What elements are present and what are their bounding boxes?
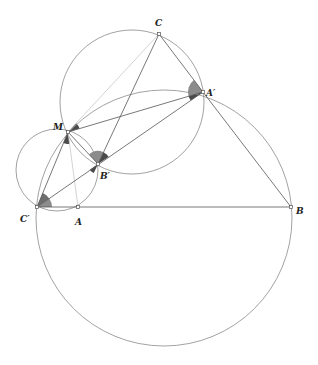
point-a — [77, 206, 80, 209]
small-circle — [16, 129, 98, 211]
label-a-prime: A′ — [205, 88, 216, 98]
label-c: C — [155, 18, 163, 28]
label-b-prime: B′ — [99, 171, 111, 181]
point-c — [158, 33, 161, 36]
segment-m-b-prime — [68, 132, 98, 164]
label-a: A — [74, 217, 82, 227]
point-m — [67, 131, 70, 134]
point-b-prime — [97, 163, 100, 166]
segment-m-c — [68, 34, 159, 132]
label-b: B — [295, 206, 304, 216]
segment-c-prime-m — [37, 132, 68, 207]
geometry-diagram: C A′ M B′ C′ A B — [0, 0, 318, 365]
segment-c-prime-a-prime — [37, 92, 203, 207]
segment-m-a-prime — [68, 92, 203, 132]
point-a-prime — [202, 91, 205, 94]
segment-c-a-prime — [159, 34, 203, 92]
segment-a-prime-b — [203, 92, 291, 207]
segment-c-b-prime — [98, 34, 159, 164]
label-m: M — [52, 122, 64, 132]
point-b — [290, 206, 293, 209]
label-c-prime: C′ — [20, 214, 30, 224]
upper-circle — [60, 30, 204, 174]
point-c-prime — [36, 206, 39, 209]
